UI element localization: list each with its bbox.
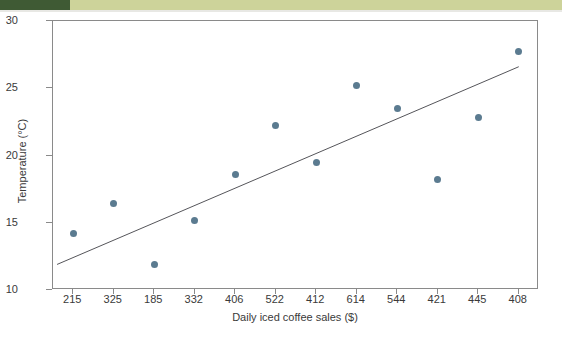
data-point <box>394 105 401 112</box>
y-tick-label: 20 <box>0 149 18 161</box>
y-tick-label: 15 <box>0 216 18 228</box>
x-tick-label: 445 <box>454 293 500 305</box>
x-tick-label: 215 <box>49 293 95 305</box>
x-tick-label: 408 <box>495 293 541 305</box>
x-tick-mark <box>477 289 478 294</box>
plot-area <box>52 20 538 289</box>
y-tick-mark <box>46 289 52 290</box>
x-tick-label: 614 <box>333 293 379 305</box>
x-tick-mark <box>437 289 438 294</box>
x-tick-label: 412 <box>292 293 338 305</box>
x-tick-label: 522 <box>252 293 298 305</box>
trend-line <box>53 21 539 290</box>
data-point <box>191 217 198 224</box>
page-banner <box>0 0 562 10</box>
banner-dark-block <box>0 0 70 10</box>
x-tick-label: 325 <box>90 293 136 305</box>
data-point <box>70 230 77 237</box>
x-tick-mark <box>153 289 154 294</box>
x-tick-label: 406 <box>211 293 257 305</box>
x-axis-title: Daily iced coffee sales ($) <box>52 311 538 323</box>
x-tick-label: 544 <box>373 293 419 305</box>
x-tick-label: 332 <box>171 293 217 305</box>
x-tick-mark <box>72 289 73 294</box>
x-tick-label: 421 <box>414 293 460 305</box>
banner-light-block <box>70 0 562 10</box>
y-tick-label: 30 <box>0 14 18 26</box>
x-tick-mark <box>194 289 195 294</box>
y-tick-label: 25 <box>0 81 18 93</box>
y-axis-title: Temperature (°C) <box>16 91 28 231</box>
x-tick-mark <box>396 289 397 294</box>
y-tick-label: 10 <box>0 283 18 295</box>
x-tick-label: 185 <box>130 293 176 305</box>
x-tick-mark <box>275 289 276 294</box>
x-tick-mark <box>234 289 235 294</box>
scatter-chart: Temperature (°C) 1015202530 215325185332… <box>0 12 562 339</box>
x-tick-mark <box>356 289 357 294</box>
x-tick-mark <box>518 289 519 294</box>
data-point <box>151 261 158 268</box>
x-tick-mark <box>113 289 114 294</box>
data-point <box>232 171 239 178</box>
data-point <box>313 159 320 166</box>
x-tick-mark <box>315 289 316 294</box>
